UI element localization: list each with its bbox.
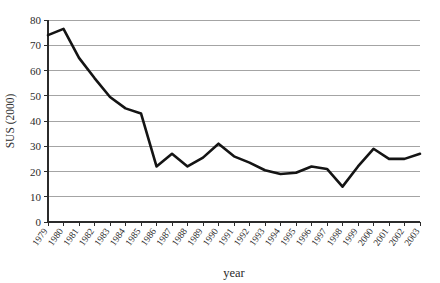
x-tick-label: 1980 xyxy=(46,226,65,248)
x-tick-label: 1986 xyxy=(139,226,158,248)
x-tick-label: 1994 xyxy=(263,226,282,248)
x-tick-label: 1995 xyxy=(279,226,298,248)
axis-ticks xyxy=(44,20,420,226)
y-tick-label: 10 xyxy=(30,191,42,203)
x-tick-label: 1998 xyxy=(325,226,344,248)
x-tick-labels: 1979198019811982198319841985198619871988… xyxy=(31,226,422,248)
x-tick-label: 1982 xyxy=(77,226,96,248)
y-tick-label: 70 xyxy=(30,39,42,51)
x-tick-label: 2002 xyxy=(387,226,406,248)
x-tick-label: 1988 xyxy=(170,226,189,248)
y-tick-label: 30 xyxy=(30,140,42,152)
x-tick-label: 1984 xyxy=(108,226,127,248)
x-tick-label: 1990 xyxy=(201,226,220,248)
y-tick-labels: 01020304050607080 xyxy=(30,14,42,228)
x-tick-label: 1985 xyxy=(124,226,143,248)
x-tick-label: 1989 xyxy=(186,226,205,248)
sus-line-chart: 01020304050607080 1979198019811982198319… xyxy=(0,0,440,283)
x-tick-label: 2003 xyxy=(403,226,422,248)
gridlines xyxy=(48,20,420,197)
x-tick-label: 1997 xyxy=(310,226,329,248)
x-tick-label: 1992 xyxy=(232,226,251,248)
x-tick-label: 2001 xyxy=(372,226,391,248)
x-tick-label: 1999 xyxy=(341,226,360,248)
x-tick-label: 2000 xyxy=(356,226,375,248)
x-tick-label: 1987 xyxy=(155,226,174,248)
x-tick-label: 1996 xyxy=(294,226,313,248)
y-tick-label: 60 xyxy=(30,65,42,77)
chart-container: 01020304050607080 1979198019811982198319… xyxy=(0,0,440,283)
y-tick-label: 20 xyxy=(30,166,42,178)
x-tick-label: 1993 xyxy=(248,226,267,248)
data-series-line xyxy=(48,29,420,187)
y-tick-label: 50 xyxy=(30,90,42,102)
y-tick-label: 80 xyxy=(30,14,42,26)
y-tick-label: 40 xyxy=(30,115,42,127)
x-tick-label: 1991 xyxy=(217,226,236,248)
x-tick-label: 1981 xyxy=(62,226,81,248)
y-axis-label: SUS (2000) xyxy=(4,94,17,149)
x-tick-label: 1983 xyxy=(93,226,112,248)
x-tick-label: 1979 xyxy=(31,226,50,248)
x-axis-label: year xyxy=(223,266,245,280)
